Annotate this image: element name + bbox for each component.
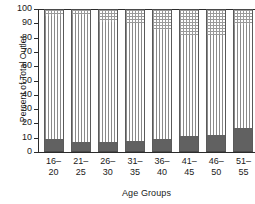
bar-segment-middle-segment	[44, 16, 64, 139]
y-tick-label: 70	[22, 47, 32, 56]
x-axis-tick-labels: 16–2021–2526–3031–3536–4041–4546–5051–55	[38, 156, 255, 190]
bar-26-30	[98, 9, 118, 152]
x-tick-label-line2: 30	[93, 167, 123, 178]
bar-51-55	[233, 9, 253, 152]
bar-41-45	[179, 9, 199, 152]
x-tick-label-line1: 16–	[39, 156, 69, 167]
bar-segment-middle-segment	[179, 35, 199, 137]
bar-segment-top-segment	[179, 9, 199, 35]
bar-36-40	[152, 9, 172, 152]
y-tick-label: 90	[22, 18, 32, 27]
x-tick-label-line1: 51–	[228, 156, 255, 167]
y-tick-label: 80	[22, 33, 32, 42]
bar-segment-top-segment	[98, 9, 118, 22]
x-tick-label: 41–45	[174, 156, 204, 178]
x-tick-label-line1: 41–	[174, 156, 204, 167]
x-tick-label-line1: 26–	[93, 156, 123, 167]
bar-21-25	[71, 9, 91, 152]
x-tick-label-line1: 31–	[120, 156, 150, 167]
bar-segment-middle-segment	[206, 35, 226, 135]
bar-31-35	[125, 9, 145, 152]
bar-segment-top-segment	[71, 9, 91, 15]
bar-segment-bottom-segment	[125, 141, 145, 152]
x-tick-label: 26–30	[93, 156, 123, 178]
y-tick-label: 20	[22, 118, 32, 127]
x-tick-label-line1: 21–	[66, 156, 96, 167]
x-tick-label: 36–40	[147, 156, 177, 178]
bar-segment-top-segment	[152, 9, 172, 30]
bar-segment-bottom-segment	[44, 139, 64, 152]
y-tick-label: 60	[22, 61, 32, 70]
y-tick-label: 50	[22, 76, 32, 85]
y-axis-tick-labels: 0102030405060708090100	[8, 0, 32, 204]
bar-segment-middle-segment	[98, 22, 118, 142]
bar-segment-middle-segment	[71, 15, 91, 142]
x-tick-label-line2: 25	[66, 167, 96, 178]
y-tick-label: 30	[22, 104, 32, 113]
bar-segment-bottom-segment	[98, 142, 118, 152]
bar-segment-middle-segment	[125, 23, 145, 140]
bar-46-50	[206, 9, 226, 152]
x-tick-label-line1: 36–	[147, 156, 177, 167]
y-tick-label: 0	[27, 147, 32, 156]
bar-segment-bottom-segment	[206, 135, 226, 152]
stacked-bar-chart: Percent of Total Outlet 0102030405060708…	[0, 0, 255, 204]
bar-segment-bottom-segment	[71, 142, 91, 152]
x-tick-label-line2: 40	[147, 167, 177, 178]
bar-segment-top-segment	[44, 9, 64, 16]
x-tick-label-line2: 35	[120, 167, 150, 178]
bar-segment-top-segment	[206, 9, 226, 35]
x-tick-label: 31–35	[120, 156, 150, 178]
bar-segment-middle-segment	[233, 25, 253, 128]
bar-segment-bottom-segment	[233, 128, 253, 152]
x-tick-label-line1: 46–	[201, 156, 231, 167]
x-tick-label-line2: 50	[201, 167, 231, 178]
x-tick-label-line2: 20	[39, 167, 69, 178]
x-tick-label: 16–20	[39, 156, 69, 178]
x-axis-title: Age Groups	[38, 188, 255, 198]
bar-16-20	[44, 9, 64, 152]
x-tick-label: 46–50	[201, 156, 231, 178]
bar-segment-bottom-segment	[152, 139, 172, 152]
bar-segment-middle-segment	[152, 30, 172, 139]
y-tick-label: 40	[22, 90, 32, 99]
bar-segment-top-segment	[125, 9, 145, 23]
bar-segment-top-segment	[233, 9, 253, 25]
x-tick-label: 21–25	[66, 156, 96, 178]
y-tick-label: 100	[17, 4, 32, 13]
x-axis-line	[38, 152, 255, 153]
y-tick-label: 10	[22, 133, 32, 142]
bar-segment-bottom-segment	[179, 136, 199, 152]
bar-group	[38, 9, 255, 152]
x-tick-label-line2: 45	[174, 167, 204, 178]
x-tick-label-line2: 55	[228, 167, 255, 178]
x-tick-label: 51–55	[228, 156, 255, 178]
